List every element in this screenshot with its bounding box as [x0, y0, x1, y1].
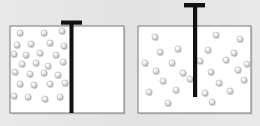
- right-panel-region: [130, 0, 260, 126]
- gas-piston-figure: [0, 0, 260, 126]
- left-panel-region: [0, 0, 130, 126]
